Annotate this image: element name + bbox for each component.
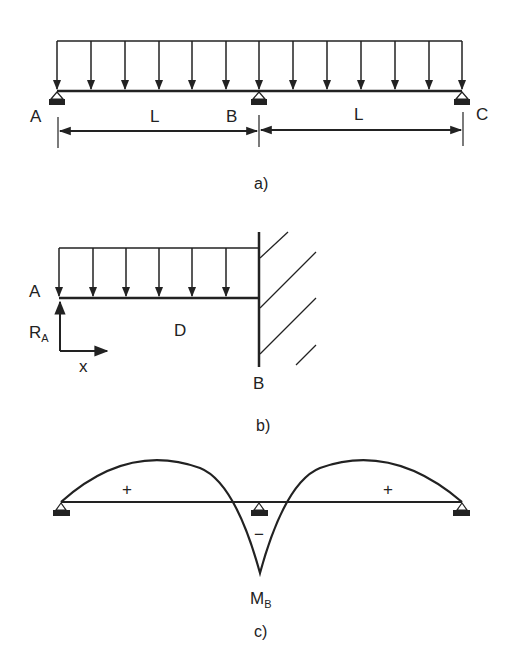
- caption-a: a): [254, 175, 268, 192]
- label-b-b: B: [253, 374, 264, 393]
- moment-diagram-curve: [61, 460, 462, 573]
- support-c-icon: [454, 92, 470, 105]
- label-x: x: [79, 357, 88, 376]
- sign-minus-middle: −: [254, 525, 264, 544]
- label-b: B: [226, 107, 237, 126]
- label-d: D: [174, 321, 186, 340]
- wall-hatch-icon: [260, 232, 316, 365]
- figure-c: [53, 460, 470, 573]
- span-label-ab: L: [150, 107, 159, 126]
- beam-diagram: A L B L C a) A RA D x B b): [0, 0, 520, 651]
- label-ra: RA: [29, 323, 49, 344]
- span-label-bc: L: [354, 105, 363, 124]
- label-a-b: A: [29, 282, 41, 301]
- label-mb: MB: [250, 589, 272, 610]
- label-c: C: [476, 105, 488, 124]
- figure-b: [59, 232, 316, 367]
- figure-a: [49, 41, 470, 148]
- sign-plus-right: +: [383, 480, 393, 499]
- support-c3-icon: [453, 503, 470, 516]
- support-a-icon: [49, 92, 65, 105]
- distributed-load-arrows: [57, 41, 462, 89]
- support-c1-icon: [53, 503, 70, 516]
- distributed-load-arrows-b: [59, 248, 226, 296]
- caption-c: c): [254, 623, 267, 640]
- sign-plus-left: +: [122, 480, 132, 499]
- support-b-icon: [251, 92, 267, 105]
- caption-b: b): [256, 417, 270, 434]
- support-c2-icon: [251, 503, 268, 516]
- label-a: A: [30, 107, 42, 126]
